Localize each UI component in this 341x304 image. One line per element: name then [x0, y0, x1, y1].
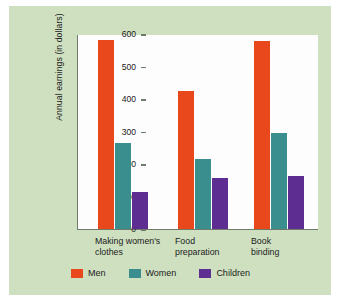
- legend-label: Women: [146, 268, 177, 278]
- legend-swatch-icon: [199, 269, 211, 278]
- bar-group: [178, 35, 228, 229]
- legend-label: Children: [216, 268, 250, 278]
- bar-men[interactable]: [178, 91, 194, 229]
- bar-men[interactable]: [98, 40, 114, 229]
- chart-legend: MenWomenChildren: [71, 268, 273, 278]
- category-label: Food preparation: [175, 236, 220, 258]
- bar-women[interactable]: [195, 159, 211, 229]
- bar-children[interactable]: [132, 192, 148, 229]
- bar-group: [254, 35, 304, 229]
- legend-item-children[interactable]: Children: [199, 268, 250, 278]
- bar-children[interactable]: [212, 178, 228, 229]
- bar-women[interactable]: [115, 143, 131, 229]
- category-label: Book binding: [251, 236, 279, 258]
- chart-figure: Annual earnings (in dollars) 01002003004…: [9, 6, 331, 295]
- bar-men[interactable]: [254, 41, 270, 229]
- legend-swatch-icon: [129, 269, 141, 278]
- plot-area: 0100200300400500600: [77, 35, 318, 230]
- legend-item-women[interactable]: Women: [129, 268, 177, 278]
- y-axis-title: Annual earnings (in dollars): [54, 0, 64, 157]
- y-axis-tick-mark: [141, 229, 146, 230]
- legend-swatch-icon: [71, 269, 83, 278]
- legend-item-men[interactable]: Men: [71, 268, 106, 278]
- category-label: Making women's clothes: [95, 236, 160, 258]
- bar-children[interactable]: [288, 176, 304, 229]
- bar-group: [98, 35, 148, 229]
- legend-label: Men: [88, 268, 106, 278]
- bar-women[interactable]: [271, 133, 287, 229]
